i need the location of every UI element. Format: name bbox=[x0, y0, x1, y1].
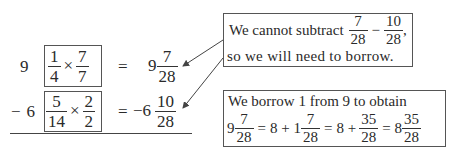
fraction: 1028 bbox=[384, 14, 403, 47]
fraction: 3528 bbox=[359, 112, 378, 145]
fraction: 728 bbox=[235, 112, 254, 145]
borrowing-explanation-figure: 9 14 × 77 = 9 728 −6 514 × 22 = −6 1028 … bbox=[0, 0, 455, 157]
fraction: 728 bbox=[301, 112, 320, 145]
fraction: 728 bbox=[349, 14, 368, 47]
note1-line2: so we will need to borrow. bbox=[227, 47, 394, 65]
note2-line1: We borrow 1 from 9 to obtain bbox=[228, 92, 407, 110]
fraction: 3528 bbox=[402, 112, 421, 145]
note1-line1: We cannot subtract 728 − 1028 , bbox=[229, 15, 407, 45]
note2-equation: 9 728 = 8 + 1 728 = 8 + 3528 = 8 3528 bbox=[227, 111, 421, 145]
